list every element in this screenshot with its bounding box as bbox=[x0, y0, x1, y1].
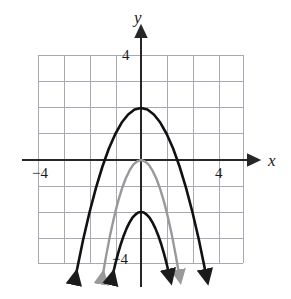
axis-lines bbox=[22, 33, 252, 287]
y-tick-positive-4: 4 bbox=[122, 48, 130, 63]
x-tick-negative-4: −4 bbox=[32, 166, 48, 181]
coordinate-plane-svg bbox=[0, 0, 291, 299]
y-axis-label: y bbox=[134, 9, 142, 26]
x-axis-label: x bbox=[268, 152, 276, 169]
graph-figure: y x −4 4 4 −4 bbox=[0, 0, 291, 299]
x-tick-positive-4: 4 bbox=[215, 166, 223, 181]
y-tick-negative-4: −4 bbox=[112, 252, 128, 267]
